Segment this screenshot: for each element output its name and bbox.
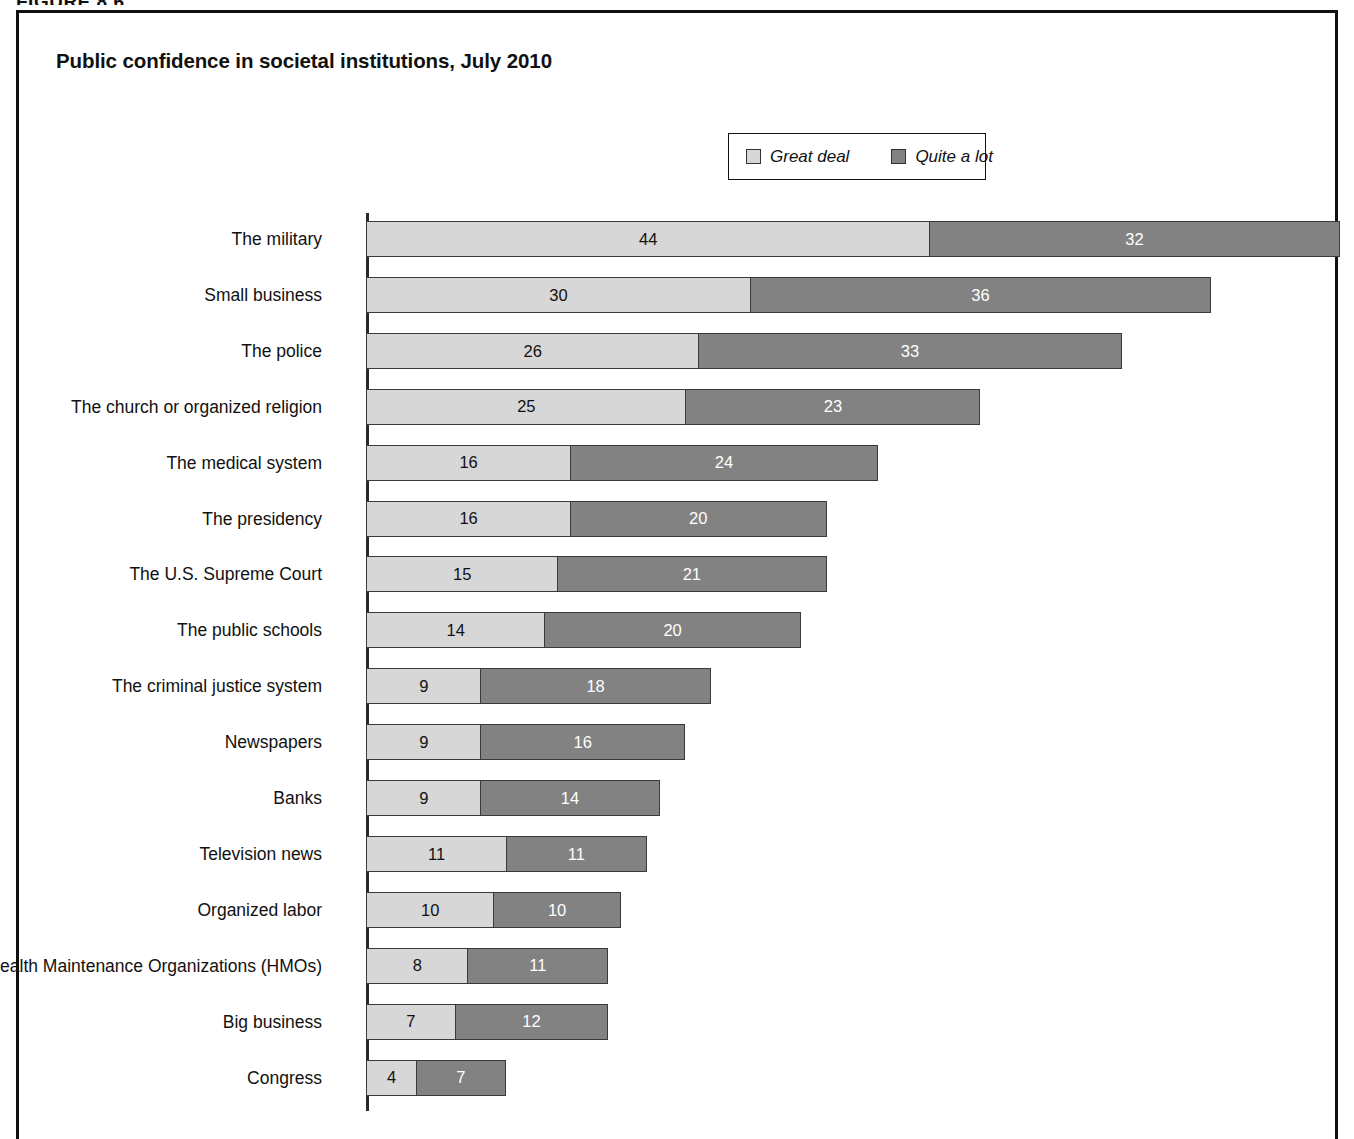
stacked-bar: 47 — [366, 1060, 506, 1096]
bar-segment-value: 14 — [447, 622, 465, 639]
bar-segment-quite-a-lot: 11 — [467, 948, 608, 984]
stacked-bar: 1624 — [366, 445, 878, 481]
bar-segment-great-deal: 9 — [366, 724, 481, 760]
bar-segment-great-deal: 9 — [366, 780, 481, 816]
bar-segment-value: 4 — [387, 1069, 396, 1086]
bar-segment-value: 10 — [421, 902, 439, 919]
bar-row: Banks914 — [19, 776, 1335, 820]
bar-row-label: The military — [232, 217, 322, 261]
bar-row-label: Banks — [273, 776, 322, 820]
bar-segment-value: 23 — [824, 398, 842, 415]
bar-row: The U.S. Supreme Court1521 — [19, 552, 1335, 596]
bar-segment-value: 16 — [574, 734, 592, 751]
bar-segment-quite-a-lot: 12 — [455, 1004, 609, 1040]
stacked-bar: 811 — [366, 948, 608, 984]
bar-segment-value: 9 — [419, 678, 428, 695]
bar-segment-value: 11 — [428, 846, 445, 863]
bar-segment-quite-a-lot: 16 — [480, 724, 685, 760]
bar-segment-great-deal: 8 — [366, 948, 469, 984]
bar-segment-great-deal: 15 — [366, 556, 558, 592]
bar-row: The medical system1624 — [19, 441, 1335, 485]
bar-row: Newspapers916 — [19, 720, 1335, 764]
bar-segment-value: 20 — [663, 622, 681, 639]
bar-row: Big business712 — [19, 1000, 1335, 1044]
bar-row-label: The public schools — [177, 608, 322, 652]
bar-row-label: Small business — [204, 273, 322, 317]
stacked-bar: 1420 — [366, 612, 801, 648]
stacked-bar: 1521 — [366, 556, 827, 592]
stacked-bar: 4432 — [366, 221, 1340, 257]
bar-segment-great-deal: 9 — [366, 668, 481, 704]
bar-row: The criminal justice system918 — [19, 664, 1335, 708]
figure-caption: FIGURE 8.6 — [16, 0, 124, 5]
bar-row: The public schools1420 — [19, 608, 1335, 652]
bar-segment-quite-a-lot: 33 — [698, 333, 1121, 369]
bar-segment-quite-a-lot: 20 — [570, 501, 827, 537]
bar-row-label: The police — [241, 329, 322, 373]
bar-row-label: The criminal justice system — [112, 664, 322, 708]
bar-segment-quite-a-lot: 36 — [750, 277, 1212, 313]
bar-row-label: Big business — [223, 1000, 322, 1044]
bar-row: The police2633 — [19, 329, 1335, 373]
bar-segment-value: 33 — [901, 343, 919, 360]
bar-segment-great-deal: 16 — [366, 501, 571, 537]
bar-segment-value: 9 — [419, 734, 428, 751]
bar-segment-quite-a-lot: 20 — [544, 612, 801, 648]
stacked-bar: 916 — [366, 724, 685, 760]
bar-segment-value: 12 — [522, 1013, 540, 1030]
bar-segment-quite-a-lot: 32 — [929, 221, 1340, 257]
bar-segment-value: 24 — [715, 454, 733, 471]
bar-segment-value: 32 — [1125, 231, 1143, 248]
bar-segment-value: 14 — [561, 790, 579, 807]
bar-row: Small business3036 — [19, 273, 1335, 317]
bar-segment-quite-a-lot: 14 — [480, 780, 660, 816]
bar-row-label: Organized labor — [197, 888, 322, 932]
bar-segment-quite-a-lot: 23 — [685, 389, 980, 425]
bar-segment-quite-a-lot: 24 — [570, 445, 878, 481]
bar-segment-value: 10 — [548, 902, 566, 919]
bar-segment-great-deal: 14 — [366, 612, 546, 648]
stacked-bar: 1111 — [366, 836, 647, 872]
bar-segment-quite-a-lot: 10 — [493, 892, 621, 928]
bar-row: The church or organized religion2523 — [19, 385, 1335, 429]
figure-frame: Public confidence in societal institutio… — [16, 10, 1338, 1139]
bar-segment-value: 15 — [453, 566, 471, 583]
bar-row: Congress47 — [19, 1056, 1335, 1100]
bar-segment-great-deal: 10 — [366, 892, 494, 928]
bar-segment-value: 36 — [971, 287, 989, 304]
bar-row-label: The church or organized religion — [71, 385, 322, 429]
bar-row-label: The U.S. Supreme Court — [129, 552, 322, 596]
bar-row-label: Congress — [247, 1056, 322, 1100]
bar-segment-great-deal: 7 — [366, 1004, 456, 1040]
stacked-bar: 918 — [366, 668, 711, 704]
stacked-bar: 1620 — [366, 501, 827, 537]
bar-row: The presidency1620 — [19, 497, 1335, 541]
bar-segment-value: 44 — [639, 231, 657, 248]
bar-segment-great-deal: 4 — [366, 1060, 417, 1096]
bar-segment-quite-a-lot: 18 — [480, 668, 711, 704]
bar-segment-great-deal: 44 — [366, 221, 930, 257]
bar-row: The military4432 — [19, 217, 1335, 261]
bar-segment-value: 18 — [586, 678, 604, 695]
stacked-bar: 2523 — [366, 389, 980, 425]
bar-segment-value: 21 — [683, 566, 701, 583]
bar-segment-value: 9 — [419, 790, 428, 807]
bar-row: Organized labor1010 — [19, 888, 1335, 932]
bar-segment-value: 16 — [459, 510, 477, 527]
bar-segment-value: 7 — [456, 1069, 465, 1086]
stacked-bar: 3036 — [366, 277, 1211, 313]
bar-segment-value: 25 — [517, 398, 535, 415]
bar-segment-quite-a-lot: 7 — [416, 1060, 506, 1096]
bar-row-label: Television news — [199, 832, 322, 876]
bar-segment-value: 16 — [459, 454, 477, 471]
bar-segment-value: 26 — [524, 343, 542, 360]
stacked-bar: 2633 — [366, 333, 1122, 369]
bar-segment-value: 30 — [549, 287, 567, 304]
stacked-bar: 1010 — [366, 892, 621, 928]
bar-segment-great-deal: 30 — [366, 277, 751, 313]
bar-row-label: The presidency — [202, 497, 322, 541]
bar-segment-value: 7 — [406, 1013, 415, 1030]
bar-segment-great-deal: 25 — [366, 389, 687, 425]
bar-row: Television news1111 — [19, 832, 1335, 876]
bar-row-label: The medical system — [166, 441, 322, 485]
